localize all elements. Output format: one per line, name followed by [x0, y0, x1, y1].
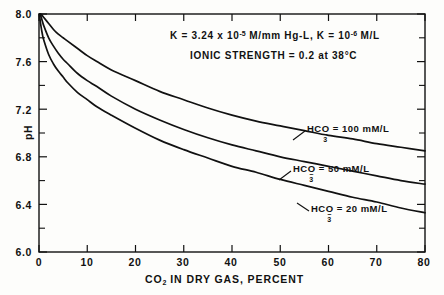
- xtick-label-20: 20: [122, 256, 148, 268]
- xtick-label-10: 10: [74, 256, 100, 268]
- y-axis-title: pH: [22, 125, 34, 140]
- curve-label-100: HCO−3 = 100 mM/L: [307, 123, 389, 134]
- ytick-label-7.6: 7.6: [2, 56, 32, 68]
- xtick-label-50: 50: [267, 256, 293, 268]
- ytick-label-6.8: 6.8: [2, 151, 32, 163]
- xtick-label-80: 80: [411, 256, 437, 268]
- xtick-label-30: 30: [170, 256, 196, 268]
- curve-label-20: HCO−3 = 20 mM/L: [311, 203, 387, 214]
- annotation-k1-mid: M/mm Hg-L, K = 10: [246, 30, 351, 41]
- ytick-label-7.2: 7.2: [2, 104, 32, 116]
- curve-label-20-sub: 3: [327, 216, 331, 223]
- curve-2: [39, 14, 425, 213]
- leader-line-0: [293, 131, 305, 140]
- plot-canvas: [0, 0, 444, 295]
- xtick-label-0: 0: [26, 256, 52, 268]
- ytick-label-6.4: 6.4: [2, 199, 32, 211]
- curve-label-100-sub: 3: [323, 136, 327, 143]
- leader-line-1: [279, 171, 291, 180]
- x-axis-title-post: IN DRY GAS, PERCENT: [166, 273, 304, 285]
- curve-label-50-post: = 50 mM/L: [316, 163, 370, 174]
- curve-label-50-sub: 3: [309, 176, 313, 183]
- annotation-k2-post: M/L: [357, 30, 380, 41]
- curve-label-20-post: = 20 mM/L: [334, 203, 388, 214]
- chart-figure: 8.0 7.6 7.2 6.8 6.4 6.0 pH 0 10 20 30 40…: [0, 0, 444, 295]
- annotation-k1-pre: K = 3.24 x 10: [170, 30, 239, 41]
- annotation-constants: K = 3.24 x 10-5 M/mm Hg-L, K = 10-6 M/L: [170, 30, 380, 41]
- x-axis-title: CO2 IN DRY GAS, PERCENT: [145, 273, 304, 286]
- xtick-label-60: 60: [315, 256, 341, 268]
- curve-label-50: HCO−3 = 50 mM/L: [293, 163, 369, 174]
- curve-label-100-post: = 100 mM/L: [330, 123, 390, 134]
- xtick-label-70: 70: [363, 256, 389, 268]
- annotation-ionic-strength: IONIC STRENGTH = 0.2 at 38°C: [190, 50, 357, 61]
- xtick-label-40: 40: [218, 256, 244, 268]
- ytick-label-8.0: 8.0: [2, 8, 32, 20]
- x-axis-title-pre: CO: [145, 273, 163, 285]
- leader-line-2: [297, 203, 309, 211]
